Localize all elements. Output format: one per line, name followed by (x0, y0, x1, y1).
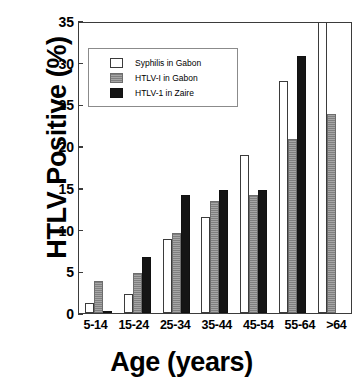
y-tick-label: 0 (44, 307, 74, 321)
bar (327, 114, 336, 313)
legend-label: HTLV-1 in Zaire (135, 88, 194, 98)
bar-group (240, 23, 267, 313)
y-tick-mark (78, 63, 83, 65)
bar (124, 294, 133, 313)
y-tick-label: 5 (44, 265, 74, 279)
x-tick-label: 55-64 (285, 318, 315, 332)
legend-swatch (110, 73, 123, 83)
x-tick-label: 25-34 (160, 318, 190, 332)
x-tick-label: 5-14 (84, 318, 108, 332)
y-tick-label: 10 (44, 224, 74, 238)
legend-label: Syphilis in Gabon (135, 58, 201, 68)
y-tick-label: 30 (44, 57, 74, 71)
bar (210, 201, 219, 313)
x-axis-ticks: 5-1415-2425-3435-4445-5455-64>64 (78, 318, 352, 332)
bar (103, 311, 112, 314)
chart-legend: Syphilis in GabonHTLV-I in GabonHTLV-1 i… (88, 48, 238, 107)
y-tick-mark (78, 313, 83, 315)
y-tick-mark (78, 105, 83, 107)
y-tick-mark (78, 188, 83, 190)
bar (258, 190, 267, 313)
x-axis-title: Age (years) (0, 347, 363, 378)
bar (142, 257, 151, 313)
y-tick-label: 25 (44, 98, 74, 112)
x-tick-label: 15-24 (118, 318, 148, 332)
bar (249, 195, 258, 313)
bar (219, 190, 228, 313)
y-tick-label: 15 (44, 182, 74, 196)
y-tick-mark (78, 21, 83, 23)
bar (133, 273, 142, 313)
x-tick-label: >64 (326, 318, 346, 332)
y-tick-label: 35 (44, 15, 74, 29)
bar (201, 217, 210, 313)
bar (85, 303, 94, 313)
legend-item: HTLV-I in Gabon (96, 70, 230, 85)
bar (163, 239, 172, 313)
bar (279, 81, 288, 313)
x-tick-label: 35-44 (202, 318, 232, 332)
y-tick-mark (78, 272, 83, 274)
legend-swatch (110, 58, 123, 68)
bar-chart-figure: HTLV Positive (%) 05101520253035 Syphili… (0, 0, 363, 391)
bar (181, 195, 190, 313)
y-tick-label: 20 (44, 140, 74, 154)
legend-swatch (110, 88, 123, 98)
bar (297, 56, 306, 313)
bar (94, 281, 103, 313)
legend-item: HTLV-1 in Zaire (96, 85, 230, 100)
legend-label: HTLV-I in Gabon (135, 73, 198, 83)
y-tick-mark (78, 146, 83, 148)
bar-group (318, 23, 345, 313)
y-tick-mark (78, 230, 83, 232)
bar (288, 139, 297, 313)
bar-group (279, 23, 306, 313)
legend-item: Syphilis in Gabon (96, 55, 230, 70)
x-tick-label: 45-54 (243, 318, 273, 332)
bar (318, 22, 327, 313)
bar (172, 233, 181, 313)
bar (240, 155, 249, 314)
